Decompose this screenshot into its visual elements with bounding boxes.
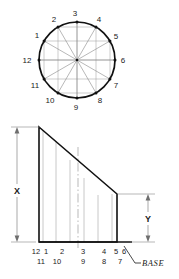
base-label: BASE <box>142 258 164 268</box>
circle-center-point <box>76 59 79 62</box>
dimension-x-label: X <box>14 186 20 196</box>
station-labels-bottom-row: 11 10 9 8 7 <box>37 257 122 266</box>
plan-point-label-3: 3 <box>73 9 78 18</box>
station-label-6: 6 <box>122 247 126 256</box>
plan-point-label-8: 8 <box>98 96 103 105</box>
elevation-view <box>39 127 132 248</box>
station-label-5: 5 <box>114 247 118 256</box>
station-label-1: 1 <box>44 247 48 256</box>
dimension-y-label: Y <box>145 214 151 224</box>
station-label-8: 8 <box>102 257 106 266</box>
plan-point-label-12: 12 <box>23 56 32 65</box>
element-lines <box>43 131 112 243</box>
technical-drawing-canvas: 1 2 3 4 5 6 7 8 9 10 11 12 <box>0 0 179 279</box>
plan-point-label-11: 11 <box>31 81 40 90</box>
plan-point-label-6: 6 <box>121 56 126 65</box>
station-label-7: 7 <box>118 257 122 266</box>
dimension-y: Y <box>118 194 155 242</box>
station-label-11: 11 <box>37 257 45 266</box>
plan-point-label-4: 4 <box>97 15 102 24</box>
dimension-x: X <box>11 127 40 242</box>
station-label-3: 3 <box>81 247 85 256</box>
plan-point-label-2: 2 <box>52 15 57 24</box>
station-label-12: 12 <box>32 247 40 256</box>
station-label-2: 2 <box>60 247 64 256</box>
station-label-9: 9 <box>81 257 85 266</box>
station-labels-top-row: 12 1 2 3 4 5 6 <box>32 247 126 256</box>
plan-point-label-9: 9 <box>74 103 79 112</box>
plan-point-label-10: 10 <box>46 96 55 105</box>
base-leader <box>124 246 141 263</box>
plan-point-label-1: 1 <box>35 31 40 40</box>
station-label-4: 4 <box>102 247 106 256</box>
plan-point-label-5: 5 <box>114 32 119 41</box>
circle-plan-view: 1 2 3 4 5 6 7 8 9 10 11 12 <box>23 9 126 112</box>
station-label-10: 10 <box>53 257 61 266</box>
plan-point-label-7: 7 <box>114 81 119 90</box>
